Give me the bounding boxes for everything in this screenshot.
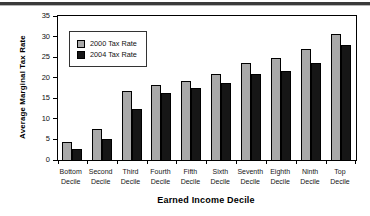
y-tick-label: 20 [22,73,50,83]
y-axis-title: Average Marginal Tax Rate [18,27,30,147]
bar-2004-top-decile [341,45,351,160]
bar-2000-fifth-decile [181,81,191,160]
y-tick-mark [53,139,57,140]
bar-2004-third-decile [132,109,142,160]
x-tick-mark [296,160,297,164]
y-tick-mark [53,98,57,99]
y-tick-mark [53,160,57,161]
bar-2000-eighth-decile [271,58,281,160]
bar-2004-seventh-decile [251,74,261,160]
x-tick-mark [236,160,237,164]
x-tick-mark [87,160,88,164]
y-tick-mark [53,16,57,17]
bar-chart: Average Marginal Tax Rate 2000 Tax Rate2… [0,0,370,216]
y-tick-label: 35 [22,11,50,21]
bar-2004-second-decile [102,139,112,160]
x-tick-mark [147,160,148,164]
y-tick-label: 5 [22,134,50,144]
x-tick-mark [176,160,177,164]
bar-2004-fifth-decile [191,88,201,160]
y-tick-mark [53,36,57,37]
plot-area: 2000 Tax Rate2004 Tax Rate 0510152025303… [57,15,357,161]
bar-2000-second-decile [92,129,102,160]
x-tick-mark [326,160,327,164]
bar-2004-fourth-decile [161,93,171,160]
legend-row: 2004 Tax Rate [77,50,137,59]
x-category-label-line2: Decile [318,177,362,187]
bar-2000-top-decile [331,34,341,160]
bar-2004-bottom-decile [72,149,82,160]
x-category-label-line1: Top [318,167,362,177]
x-tick-mark [355,160,356,164]
legend-swatch [77,40,85,48]
legend-label: 2000 Tax Rate [90,39,137,48]
bar-2000-ninth-decile [301,49,311,160]
bar-2004-sixth-decile [221,83,231,160]
x-tick-mark [117,160,118,164]
y-tick-label: 15 [22,93,50,103]
x-tick-mark [206,160,207,164]
bar-2000-bottom-decile [62,142,72,161]
chart-figure: Average Marginal Tax Rate 2000 Tax Rate2… [0,0,370,216]
y-tick-label: 30 [22,32,50,42]
bar-2000-sixth-decile [211,74,221,160]
y-tick-label: 0 [22,155,50,165]
y-tick-label: 10 [22,114,50,124]
legend-label: 2004 Tax Rate [90,50,137,59]
x-tick-mark [58,160,59,164]
x-category-label: TopDecile [318,167,362,186]
y-tick-mark [53,57,57,58]
bar-2000-fourth-decile [151,85,161,160]
y-tick-label: 25 [22,52,50,62]
bar-2004-eighth-decile [281,71,291,160]
bar-2004-ninth-decile [311,63,321,160]
bar-2000-third-decile [122,91,132,160]
y-tick-mark [53,118,57,119]
legend-swatch [77,51,85,59]
legend: 2000 Tax Rate2004 Tax Rate [69,31,147,67]
x-tick-mark [266,160,267,164]
y-tick-mark [53,77,57,78]
bar-2000-seventh-decile [241,63,251,160]
legend-row: 2000 Tax Rate [77,39,137,48]
x-axis-title: Earned Income Decile [106,195,306,205]
